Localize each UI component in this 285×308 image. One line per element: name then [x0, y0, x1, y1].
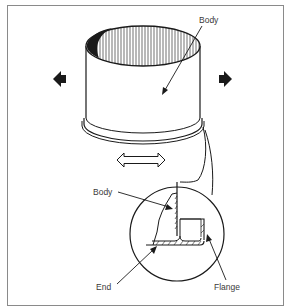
arrow-right-icon	[219, 71, 232, 87]
arrow-left-icon	[53, 71, 66, 87]
double-arrow-horizontal-icon	[117, 153, 165, 167]
label-body-top: Body	[199, 15, 219, 25]
label-flange: Flange	[214, 282, 240, 292]
label-body-detail: Body	[93, 187, 113, 197]
detail-callout-lines	[180, 127, 213, 195]
can-flange-ring	[82, 118, 204, 144]
can-flange-diagram: Body Body End Flange	[0, 0, 285, 308]
label-end: End	[96, 282, 111, 292]
